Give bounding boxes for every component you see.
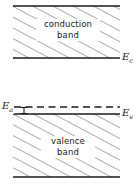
valence-band-hatch: [13, 114, 120, 177]
energy-band-diagram: conduction band valence band Ec Ev Ea: [0, 0, 139, 184]
acceptor-level-label-ea: Ea: [1, 100, 14, 114]
conduction-band-region: [13, 6, 120, 58]
conduction-band-edge-label-ec: Ec: [121, 51, 134, 65]
acceptor-energy-gap-arrow: [21, 108, 28, 114]
valence-band-region: [13, 114, 120, 177]
conduction-band-hatch: [13, 6, 120, 58]
ea-subscript: a: [9, 106, 13, 114]
band-diagram-canvas: [0, 0, 139, 184]
ec-subscript: c: [129, 57, 133, 65]
ev-subscript: v: [129, 113, 133, 121]
valence-band-edge-label-ev: Ev: [121, 107, 134, 121]
